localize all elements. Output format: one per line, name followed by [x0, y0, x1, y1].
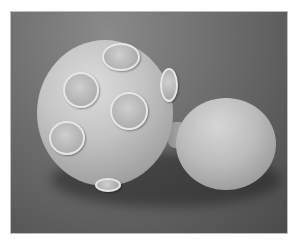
- bud-scar: [49, 121, 85, 155]
- micrograph-frame: [10, 11, 288, 234]
- bud-scar: [63, 72, 99, 108]
- bud-scar: [102, 43, 140, 71]
- bud-scar: [95, 178, 121, 192]
- bud-scar: [110, 92, 148, 130]
- daughter-bud: [176, 98, 276, 190]
- bud-scar: [160, 68, 178, 102]
